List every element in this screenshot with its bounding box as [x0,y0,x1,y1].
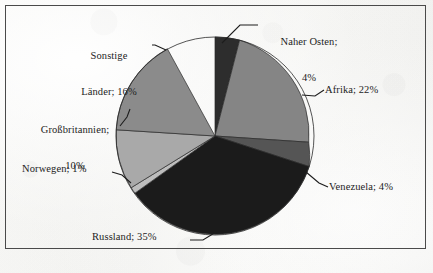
slice-label-grossbritannien: Großbritannien; 10% [20,100,130,196]
leader-line-sonstige-laender [152,45,166,50]
slice-label-norwegen: Norwegen; 1% [22,163,114,175]
leader-line-venezuela [306,172,328,187]
slice-label-sonstige-laender-line2: Länder; 16% [66,86,152,98]
slice-label-naher-osten-line1: Naher Osten; [262,36,356,48]
slice-label-naher-osten-line2: 4% [262,72,356,84]
pie-chart: Naher Osten; 4% Sonstige Länder; 16% Afr… [0,0,433,273]
slice-label-sonstige-laender-line1: Sonstige [66,50,152,62]
slice-label-russland: Russland; 35% [92,231,196,243]
slice-label-venezuela: Venezuela; 4% [329,181,425,193]
slice-label-grossbritannien-line1: Großbritannien; [20,124,130,136]
scanned-page-background: Naher Osten; 4% Sonstige Länder; 16% Afr… [0,0,433,273]
slice-label-afrika: Afrika; 22% [325,84,415,96]
